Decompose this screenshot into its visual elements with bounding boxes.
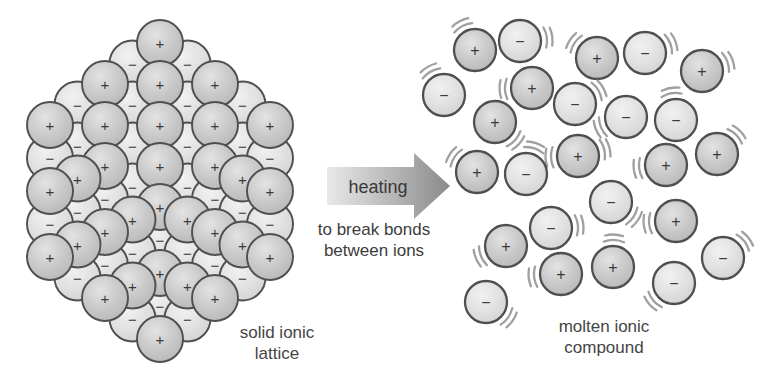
vibration-marks (505, 79, 507, 99)
ion-charge-sign: − (718, 250, 727, 267)
ion-charge-sign: + (156, 76, 165, 93)
vibration-marks (742, 232, 753, 246)
arrow-sub-caption-line2: between ions (318, 240, 430, 261)
ion-charge-sign: + (608, 259, 617, 276)
ion-charge-sign: + (472, 164, 481, 181)
vibration-marks (662, 88, 680, 91)
arrow-sub-caption-line1: to break bonds (318, 219, 430, 240)
ion-charge-sign: − (183, 97, 192, 114)
ion-charge-sign: + (183, 278, 192, 295)
vibration-marks (606, 139, 611, 156)
ion-charge-sign: + (697, 63, 706, 80)
ion-charge-sign: + (211, 117, 220, 134)
vibration-marks (733, 126, 746, 139)
ion-charge-sign: + (238, 237, 247, 254)
ion-charge-sign: − (73, 138, 82, 155)
molten-compound-caption-line2: compound (559, 337, 650, 358)
ion-charge-sign: − (128, 179, 137, 196)
vibration-marks (512, 136, 524, 149)
figure-canvas: −−−−−−−−−−−−−−−−−−−−−−−−−−−−−−++++++++++… (0, 0, 775, 378)
vibration-marks (600, 140, 605, 160)
ion-charge-sign: − (238, 270, 247, 287)
ion-charge-sign: − (481, 294, 490, 311)
ion-charge-sign: − (128, 97, 137, 114)
ion-charge-sign: + (156, 35, 165, 52)
ion-charge-sign: − (211, 191, 220, 208)
ion-charge-sign: + (101, 76, 110, 93)
vibration-marks (550, 28, 553, 46)
ion-charge-sign: + (101, 224, 110, 241)
ion-charge-sign: + (556, 266, 565, 283)
ion-charge-sign: − (101, 191, 110, 208)
molten-compound-caption-line1: molten ionic (559, 316, 650, 337)
solid-lattice-caption: solid ionic lattice (240, 322, 315, 364)
ion-charge-sign: − (238, 138, 247, 155)
ion-charge-sign: + (661, 157, 670, 174)
ion-charge-sign: − (669, 275, 678, 292)
ion-charge-sign: + (101, 158, 110, 175)
ion-charge-sign: − (266, 150, 275, 167)
vibration-marks (604, 240, 624, 242)
vibration-marks (575, 215, 578, 235)
ion-charge-sign: + (501, 238, 510, 255)
ion-charge-sign: + (73, 237, 82, 254)
vibration-marks (534, 267, 537, 287)
ion-charge-sign: − (621, 109, 630, 126)
solid-lattice-caption-line2: lattice (240, 343, 315, 364)
ion-charge-sign: + (527, 80, 536, 97)
ion-charge-sign: − (156, 298, 165, 315)
ion-charge-sign: + (266, 117, 275, 134)
ion-charge-sign: − (238, 204, 247, 221)
ion-charge-sign: − (183, 56, 192, 73)
vibration-marks (644, 215, 646, 233)
vibration-marks (605, 235, 623, 237)
ion-charge-sign: + (156, 117, 165, 134)
ion-charge-sign: + (211, 224, 220, 241)
ion-charge-sign: − (156, 232, 165, 249)
ion-charge-sign: + (490, 114, 499, 131)
vibration-marks (551, 147, 553, 167)
ion-charge-sign: − (640, 45, 649, 62)
ion-charge-sign: − (515, 33, 524, 50)
ion-charge-sign: − (183, 311, 192, 328)
ion-charge-sign: + (573, 148, 582, 165)
ion-charge-sign: + (183, 212, 192, 229)
ion-charge-sign: − (238, 97, 247, 114)
vibration-marks (529, 268, 531, 286)
vibration-marks (446, 147, 456, 162)
ion-charge-sign: + (128, 212, 137, 229)
ion-charge-sign: + (101, 117, 110, 134)
ion-charge-sign: + (266, 249, 275, 266)
ion-charge-sign: − (128, 311, 137, 328)
ion-charge-sign: − (73, 97, 82, 114)
ion-charge-sign: − (128, 138, 137, 155)
vibration-marks (639, 158, 642, 178)
vibration-marks (645, 297, 657, 311)
ion-charge-sign: − (266, 216, 275, 233)
ion-charge-sign: − (671, 112, 680, 129)
ion-charge-sign: + (46, 117, 55, 134)
ion-charge-sign: + (156, 199, 165, 216)
ion-charge-sign: − (183, 138, 192, 155)
ion-charge-sign: + (211, 158, 220, 175)
ion-charge-sign: + (73, 171, 82, 188)
ion-charge-sign: + (101, 290, 110, 307)
ion-charge-sign: − (128, 245, 137, 262)
vibration-marks (545, 149, 547, 167)
ion-charge-sign: + (211, 76, 220, 93)
vibration-marks (634, 160, 637, 178)
ion-charge-sign: − (183, 245, 192, 262)
ion-charge-sign: + (46, 183, 55, 200)
ion-charge-sign: − (73, 204, 82, 221)
ion-charge-sign: + (238, 171, 247, 188)
ion-charge-sign: + (46, 249, 55, 266)
solid-lattice-caption-line1: solid ionic (240, 322, 315, 343)
vibration-marks (662, 93, 682, 97)
vibration-marks (543, 28, 547, 48)
vibration-marks (581, 216, 583, 234)
ion-charge-sign: − (211, 257, 220, 274)
ion-charge-sign: + (592, 50, 601, 67)
vibration-marks (649, 213, 652, 233)
ion-charge-sign: − (570, 96, 579, 113)
vibration-marks (500, 80, 502, 98)
